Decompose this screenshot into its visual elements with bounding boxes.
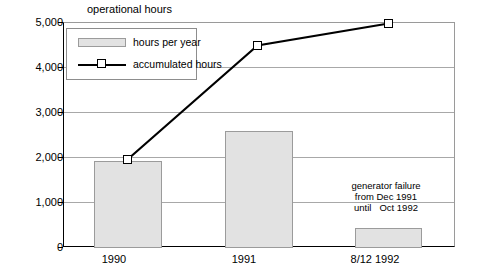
bar-swatch-icon bbox=[78, 38, 126, 47]
y-tick-label-5000: 5,000 bbox=[15, 17, 63, 28]
y-tick-label-2000: 2,000 bbox=[15, 152, 63, 163]
legend-item-hours-per-year: hours per year bbox=[67, 33, 196, 55]
legend-item-accumulated-hours: accumulated hours bbox=[67, 55, 196, 77]
legend-label-accumulated-hours: accumulated hours bbox=[133, 58, 222, 71]
y-axis: 5,000 4,000 3,000 2,000 1,000 0 bbox=[0, 0, 63, 280]
x-tick-label-1990: 1990 bbox=[70, 253, 158, 265]
x-tick-label-8-12-1992: 8/12 1992 bbox=[331, 253, 419, 265]
x-tick-label-1991: 1991 bbox=[200, 253, 288, 265]
y-tick-label-1000: 1,000 bbox=[15, 197, 63, 208]
line-marker-swatch-icon bbox=[97, 59, 106, 68]
operational-hours-chart: operational hours 5,000 4,000 3,000 2,00… bbox=[0, 0, 481, 280]
chart-legend: hours per year accumulated hours bbox=[66, 28, 197, 80]
bar-1991 bbox=[225, 131, 293, 248]
bar-1990 bbox=[94, 161, 162, 248]
annotation-line-2: from Dec 1991 bbox=[340, 191, 432, 202]
line-marker-1990 bbox=[123, 155, 132, 164]
generator-failure-annotation: generator failure from Dec 1991 until Oc… bbox=[340, 180, 432, 213]
line-marker-8-12-1992 bbox=[384, 19, 393, 28]
bar-8-12-1992 bbox=[355, 228, 422, 248]
annotation-line-1: generator failure bbox=[340, 180, 432, 191]
chart-title: operational hours bbox=[87, 3, 172, 16]
y-tick-label-3000: 3,000 bbox=[15, 107, 63, 118]
annotation-line-3: until Oct 1992 bbox=[340, 202, 432, 213]
y-tick-label-4000: 4,000 bbox=[15, 62, 63, 73]
gridline-3000 bbox=[64, 112, 454, 113]
legend-label-hours-per-year: hours per year bbox=[133, 36, 201, 49]
y-tick-label-0: 0 bbox=[15, 242, 63, 253]
line-marker-1991 bbox=[253, 41, 262, 50]
y-tick-mark-0 bbox=[58, 247, 63, 248]
